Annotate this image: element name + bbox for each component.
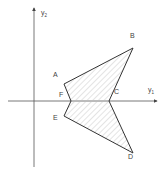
- vertex-label-d: D: [128, 153, 133, 160]
- vertex-label-f: F: [59, 91, 63, 98]
- hatched-region: [64, 48, 133, 153]
- vertex-label-a: A: [53, 71, 58, 78]
- horizontal-axis-label: y1: [148, 86, 155, 95]
- diagram-canvas: y2 y1 A B C D E F: [0, 0, 165, 176]
- vertex-label-b: B: [130, 32, 135, 39]
- vertex-label-e: E: [53, 114, 58, 121]
- vertical-axis-label: y2: [41, 9, 48, 18]
- vertex-label-c: C: [114, 88, 119, 95]
